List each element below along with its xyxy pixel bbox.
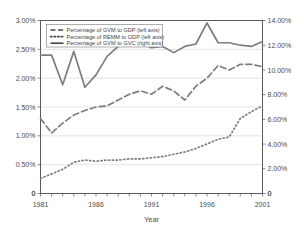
gridlines [41, 49, 263, 164]
chart-container: 00.50%1.00%1.50%2.00%2.50%3.00%0 02.00%4… [0, 0, 304, 235]
left-axis-tick-label: 1.00% [16, 132, 36, 139]
right-axis-tick-label: 8.00% [268, 91, 288, 98]
left-axis-zero-label: 0 [32, 190, 36, 197]
left-axis-tick-label: 3.00% [16, 17, 36, 24]
chart-legend: Percentage of GVM to GDP (left axis)Perc… [47, 25, 165, 48]
right-axis-tick-label: 12.00% [268, 42, 292, 49]
series-line-1 [41, 106, 263, 179]
right-axis-tick-labels: 02.00%4.00%6.00%8.00%10.00%12.00%14.00%0 [268, 17, 292, 197]
line-chart: 00.50%1.00%1.50%2.00%2.50%3.00%0 02.00%4… [0, 0, 304, 235]
x-axis-tick-label: 1981 [33, 201, 49, 208]
right-axis-tick-label: 4.00% [268, 141, 288, 148]
right-axis-tick-label: 14.00% [268, 17, 292, 24]
x-axis-tick-label: 1991 [144, 201, 160, 208]
x-axis-tick-label: 2001 [255, 201, 271, 208]
left-axis-tick-label: 1.50% [16, 104, 36, 111]
right-axis-tick-label: 6.00% [268, 116, 288, 123]
x-axis-tick-label: 1986 [88, 201, 104, 208]
right-axis-tick-label: 10.00% [268, 67, 292, 74]
left-axis-tick-labels: 00.50%1.00%1.50%2.00%2.50%3.00%0 [16, 17, 36, 197]
x-axis-label: Year [144, 215, 160, 224]
x-axis-tick-label: 1996 [199, 201, 215, 208]
left-axis-tick-label: 2.50% [16, 46, 36, 53]
series-line-0 [41, 64, 263, 133]
legend-label-2: Percentage of GVM to GVC (right axis) [67, 40, 164, 46]
right-axis-zero-label: 0 [268, 190, 272, 197]
x-axis-tick-labels: 19811986199119962001 [33, 201, 271, 208]
right-axis-tick-label: 2.00% [268, 165, 288, 172]
legend-label-1: Percentage of REMM to GDP (left axis) [67, 34, 165, 40]
left-axis-tick-label: 2.00% [16, 75, 36, 82]
left-axis-tick-label: 0.50% [16, 161, 36, 168]
legend-label-0: Percentage of GVM to GDP (left axis) [67, 27, 160, 33]
